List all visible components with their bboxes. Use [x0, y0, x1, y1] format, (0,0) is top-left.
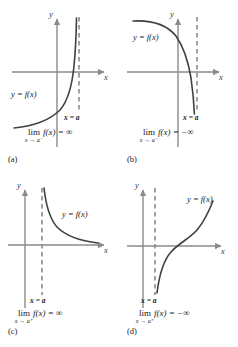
y-axis-label: y — [170, 10, 174, 19]
limit-body: f(x) = −∞ — [154, 309, 190, 318]
x-axis-label: x — [221, 247, 225, 256]
y-axis-label: y — [17, 181, 21, 190]
limits-figure: y x y = f(x) x = a lim x → a⁻ f(x) = ∞ (… — [0, 0, 238, 347]
x-axis-label: x — [219, 73, 223, 82]
panel-a: y x y = f(x) x = a lim x → a⁻ f(x) = ∞ (… — [0, 0, 119, 173]
limit-subscript: x → a⁺ — [136, 318, 154, 324]
limit-expression: lim x → a⁺ f(x) = −∞ — [139, 309, 190, 318]
limit-subscript: x → a⁺ — [15, 318, 33, 324]
asymptote-label: x = a — [30, 297, 46, 305]
x-axis-label: x — [104, 73, 108, 82]
function-curve — [157, 201, 213, 293]
limit-subscript: x → a⁻ — [25, 137, 43, 143]
limit-body: f(x) = ∞ — [33, 309, 62, 318]
asymptote-label: x = a — [141, 297, 157, 305]
limit-operator-group: lim x → a⁻ — [143, 128, 155, 137]
limit-operator-group: lim x → a⁻ — [28, 128, 40, 137]
panel-tag: (b) — [127, 154, 137, 164]
panel-a-graph — [0, 0, 119, 173]
y-axis-label: y — [49, 10, 53, 19]
limit-subscript: x → a⁻ — [140, 137, 158, 143]
panel-tag: (a) — [8, 154, 17, 164]
limit-expression: lim x → a⁻ f(x) = −∞ — [143, 128, 194, 137]
asymptote-label: x = a — [64, 114, 80, 122]
panel-d: y x y = f(x) x = a lim x → a⁺ f(x) = −∞ … — [119, 173, 238, 346]
panel-tag: (c) — [8, 326, 17, 336]
function-curve — [14, 18, 77, 128]
x-axis-label: x — [104, 246, 108, 255]
limit-expression: lim x → a⁻ f(x) = ∞ — [28, 128, 73, 137]
panel-b-graph — [119, 0, 238, 173]
asymptote-label: x = a — [183, 114, 199, 122]
function-label: y = f(x) — [133, 33, 159, 42]
function-label: y = f(x) — [62, 210, 88, 219]
limit-body: f(x) = ∞ — [43, 128, 72, 137]
panel-tag: (d) — [127, 326, 137, 336]
y-axis-label: y — [135, 181, 139, 190]
limit-operator-group: lim x → a⁺ — [18, 309, 30, 318]
function-label: y = f(x) — [11, 90, 37, 99]
function-label: y = f(x) — [187, 195, 213, 204]
limit-expression: lim x → a⁺ f(x) = ∞ — [18, 309, 63, 318]
panel-c: y x y = f(x) x = a lim x → a⁺ f(x) = ∞ (… — [0, 173, 119, 346]
limit-body: f(x) = −∞ — [158, 128, 194, 137]
panel-b: y x y = f(x) x = a lim x → a⁻ f(x) = −∞ … — [119, 0, 238, 173]
limit-operator-group: lim x → a⁺ — [139, 309, 151, 318]
